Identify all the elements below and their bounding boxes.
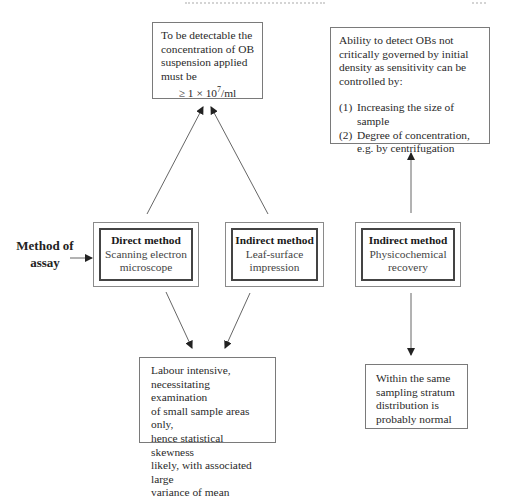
note-line: probably normal xyxy=(376,413,459,427)
note-line: suspension applied xyxy=(161,56,254,70)
note-line: of small sample areas only, xyxy=(151,405,267,432)
list-item: (2) Degree of concentration, e.g. by cen… xyxy=(339,129,481,156)
note-line: Within the same xyxy=(376,372,459,386)
note-line: likely, with associated large xyxy=(151,459,267,486)
method-subtitle: Scanning electron xyxy=(101,248,191,262)
labour-intensive-note: Labour intensive, necessitating examinat… xyxy=(139,357,276,443)
note-line: Labour intensive, xyxy=(151,364,267,378)
method-title: Indirect method xyxy=(233,234,316,248)
detection-threshold-note: To be detectable the concentration of OB… xyxy=(152,22,263,99)
arrow-direct-to-labour xyxy=(166,292,192,348)
note-line: Ability to detect OBs not xyxy=(339,34,481,48)
method-box-direct: Direct method Scanning electron microsco… xyxy=(93,222,199,287)
arrow-direct-to-threshold xyxy=(147,107,203,214)
note-line: controlled by: xyxy=(339,75,481,89)
note-line: hence statistical skewness xyxy=(151,432,267,459)
sensitivity-note: Ability to detect OBs not critically gov… xyxy=(330,27,490,144)
method-title: Indirect method xyxy=(363,234,453,248)
note-line: sampling stratum xyxy=(376,386,459,400)
method-box-physicochemical: Indirect method Physicochemical recovery xyxy=(355,222,461,287)
note-line: variance of mean xyxy=(151,486,267,500)
concentration-formula: ≥ 1 × 107/ml xyxy=(161,83,254,100)
note-line: must be xyxy=(161,70,254,84)
method-subtitle: impression xyxy=(233,261,316,275)
method-title: Direct method xyxy=(101,234,191,248)
note-line: necessitating examination xyxy=(151,378,267,405)
list-item: (1) Increasing the size of sample xyxy=(339,101,481,128)
method-subtitle: recovery xyxy=(363,261,453,275)
note-line: To be detectable the xyxy=(161,29,254,43)
arrow-leaf-to-threshold xyxy=(211,107,268,214)
method-box-leaf-surface: Indirect method Leaf-surface impression xyxy=(225,222,324,287)
note-line: critically governed by initial xyxy=(339,48,481,62)
method-subtitle: microscope xyxy=(101,261,191,275)
note-line: distribution is xyxy=(376,399,459,413)
note-line: density as sensitivity can be xyxy=(339,61,481,75)
sensitivity-list: (1) Increasing the size of sample (2) De… xyxy=(339,101,481,155)
method-subtitle: Physicochemical xyxy=(363,248,453,262)
arrow-leaf-to-labour xyxy=(225,293,250,348)
distribution-note: Within the same sampling stratum distrib… xyxy=(365,364,468,429)
method-of-assay-label: Method of assay xyxy=(14,237,76,271)
method-subtitle: Leaf-surface xyxy=(233,248,316,262)
note-line: concentration of OB xyxy=(161,43,254,57)
